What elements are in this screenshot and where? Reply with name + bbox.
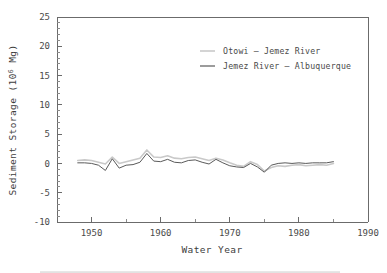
y-tick-label: 20	[39, 41, 50, 51]
x-tick-label: 1970	[219, 228, 241, 238]
legend-label-0: Otowi – Jemez River	[223, 46, 320, 56]
x-axis-title: Water Year	[181, 244, 242, 255]
y-tick-label: 0	[45, 159, 50, 169]
svg-text:Sediment Storage (106 Mg): Sediment Storage (106 Mg)	[7, 44, 19, 195]
y-tick-label: -10	[34, 217, 50, 227]
y-axis-title-base: Sediment Storage (10	[7, 73, 18, 195]
y-axis: -10-50510152025	[34, 12, 62, 227]
sediment-storage-line-chart: -10-50510152025 19501960197019801990 Sed…	[0, 0, 387, 273]
x-tick-label: 1960	[150, 228, 172, 238]
plot-frame	[57, 17, 368, 222]
legend: Otowi – Jemez RiverJemez River – Albuque…	[200, 46, 351, 71]
y-tick-label: 10	[39, 100, 50, 110]
y-axis-title-tail: Mg)	[7, 44, 18, 68]
data-series-group	[78, 150, 334, 172]
figure-container: -10-50510152025 19501960197019801990 Sed…	[0, 0, 387, 273]
x-tick-label: 1950	[81, 228, 103, 238]
y-tick-label: 25	[39, 12, 50, 22]
x-tick-label: 1990	[357, 228, 379, 238]
x-tick-label: 1980	[288, 228, 310, 238]
legend-label-1: Jemez River – Albuquerque	[223, 61, 351, 71]
x-axis: 19501960197019801990	[81, 217, 379, 238]
y-tick-label: -5	[39, 188, 50, 198]
y-axis-title: Sediment Storage (106 Mg)	[7, 44, 19, 195]
y-tick-label: 15	[39, 71, 50, 81]
series-line-1	[78, 153, 334, 172]
series-line-0	[78, 150, 334, 171]
y-tick-label: 5	[45, 129, 50, 139]
